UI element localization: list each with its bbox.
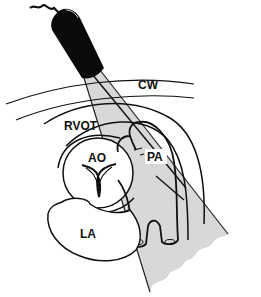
label-cw: CW: [138, 78, 159, 92]
label-rvot: RVOT: [64, 119, 98, 133]
label-la: LA: [80, 227, 96, 241]
label-pa: PA: [147, 150, 163, 164]
label-ao: AO: [88, 151, 106, 165]
transducer-probe: [30, 5, 104, 78]
echo-diagram: CW RVOT AO PA LA: [0, 0, 261, 297]
